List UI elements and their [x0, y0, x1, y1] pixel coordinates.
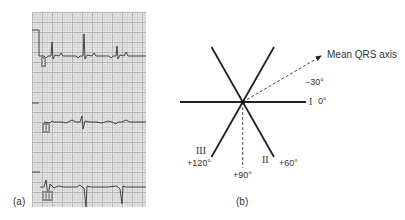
angle-plus90-label: +90°: [233, 170, 252, 180]
lead-i-axis-label: I: [309, 96, 312, 107]
panel-b-label: (b): [236, 196, 248, 207]
lead-ii-axis-label: II: [262, 154, 269, 165]
lead-iii-axis-label: III: [196, 145, 206, 156]
angle-plus120-label: +120°: [187, 158, 211, 168]
axis-diagram: [0, 0, 405, 220]
center-point: [241, 100, 245, 104]
angle-plus60-label: +60°: [279, 158, 298, 168]
angle-minus30-label: −30°: [305, 77, 324, 87]
angle-zero-label: 0°: [318, 96, 327, 106]
mean-qrs-axis-label: Mean QRS axis: [327, 49, 397, 60]
